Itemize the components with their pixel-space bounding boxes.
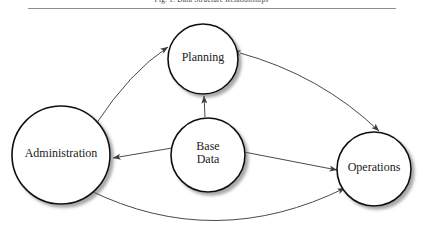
connector-planning-operations: [240, 53, 379, 131]
figure-page: Fig. 1. Data Structure Relationships: [0, 0, 423, 242]
connector-administration-operations: [89, 188, 345, 221]
node-circle-administration[interactable]: [12, 106, 110, 204]
node-circle-base-data[interactable]: [171, 118, 245, 192]
connector-base-data-operations: [244, 152, 337, 170]
connector-administration-planning: [96, 47, 168, 124]
connector-base-data-administration: [113, 148, 172, 158]
node-circle-planning[interactable]: [168, 24, 238, 94]
node-circle-operations[interactable]: [337, 132, 411, 206]
connector-base-data-planning: [204, 96, 205, 117]
diagram-nodes: [12, 24, 411, 206]
diagram-canvas: [0, 0, 423, 242]
